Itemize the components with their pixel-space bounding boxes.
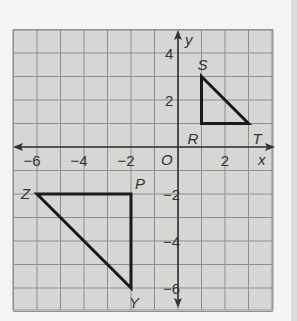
origin-label: O: [161, 151, 173, 168]
vertex-label-r: R: [188, 130, 199, 147]
y-tick-label: −6: [163, 280, 180, 297]
y-tick-label: −4: [163, 233, 180, 250]
x-tick-label: 2: [221, 152, 229, 169]
x-tick-label: −4: [70, 152, 87, 169]
vertex-label-s: S: [198, 56, 208, 73]
y-tick-label: 2: [165, 92, 173, 109]
vertex-label-y: Y: [129, 294, 140, 311]
coordinate-plane: −6−4−2242−2−4−6 x y O RSTZPY: [0, 0, 297, 321]
y-tick-label: −2: [163, 186, 180, 203]
y-tick-label: 4: [165, 45, 173, 62]
x-tick-label: −6: [23, 152, 40, 169]
page-edge: [291, 0, 297, 321]
vertex-label-z: Z: [20, 185, 31, 202]
vertex-label-p: P: [135, 175, 145, 192]
x-tick-label: −2: [117, 152, 134, 169]
x-axis-label: x: [257, 151, 266, 168]
